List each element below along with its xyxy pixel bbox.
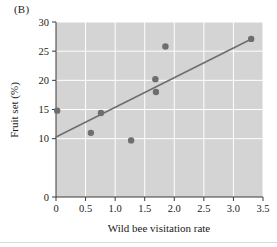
y-axis-tick-labels: 01015202530 [39,17,50,203]
svg-text:0: 0 [44,192,49,203]
data-point [128,137,134,143]
svg-text:0.5: 0.5 [79,203,92,214]
data-point [162,43,168,49]
svg-text:2.0: 2.0 [168,203,181,214]
svg-text:15: 15 [39,104,50,115]
scatter-plot: 00.51.01.52.02.53.03.5 01015202530 Wild … [0,0,277,247]
data-point [153,89,159,95]
data-point [152,76,158,82]
x-axis-tick-labels: 00.51.01.52.02.53.03.5 [53,203,269,214]
data-point [88,130,94,136]
svg-text:1.0: 1.0 [109,203,122,214]
svg-text:20: 20 [39,75,50,86]
svg-text:3.5: 3.5 [256,203,269,214]
svg-text:2.5: 2.5 [197,203,210,214]
svg-text:25: 25 [39,46,50,57]
svg-text:10: 10 [39,133,50,144]
x-axis-title: Wild bee visitation rate [108,222,211,234]
data-point [54,107,60,113]
figure-bottom-rule [0,242,277,247]
data-point [98,110,104,116]
x-axis-ticks [56,197,263,201]
svg-text:30: 30 [39,17,50,28]
svg-text:3.0: 3.0 [227,203,240,214]
data-point [248,36,254,42]
y-axis-title: Fruit set (%) [8,82,21,138]
svg-text:0: 0 [53,203,58,214]
figure-panel-b: (B) 00.51.01.52.02.53.03.5 01015202530 W… [0,0,277,247]
svg-text:1.5: 1.5 [138,203,151,214]
